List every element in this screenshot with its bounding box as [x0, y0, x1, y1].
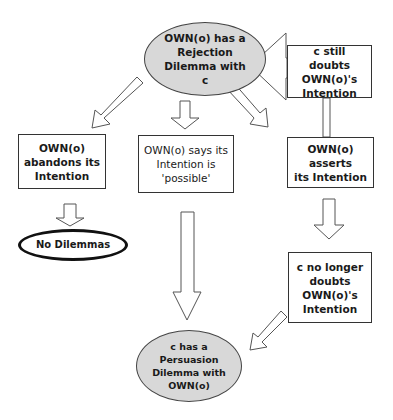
arrow-no-longer-to-persuasion	[250, 311, 287, 350]
node-label: No Dilemmas	[36, 238, 110, 252]
node-says-possible: OWN(o) says its Intention is 'possible'	[138, 135, 234, 193]
node-abandons: OWN(o) abandons its Intention	[18, 134, 106, 189]
arrow-rejection-to-abandons	[92, 77, 143, 128]
connector-still-doubts-to-asserts	[323, 98, 330, 137]
node-asserts: OWN(o) asserts its Intention	[287, 137, 374, 188]
node-label: c no longer doubts OWN(o)'s Intention	[297, 260, 363, 316]
node-label: OWN(o) asserts its Intention	[292, 142, 369, 184]
node-persuasion-dilemma: c has a Persuasion Dilemma with OWN(o)	[136, 330, 242, 402]
node-label: OWN(o) has a Rejection Dilemma with c	[164, 31, 245, 87]
arrow-asserts-to-no-longer	[314, 199, 344, 239]
node-label: c has a Persuasion Dilemma with OWN(o)	[152, 340, 226, 392]
node-label: OWN(o) abandons its Intention	[24, 141, 100, 183]
node-rejection-dilemma: OWN(o) has a Rejection Dilemma with c	[144, 22, 266, 96]
node-label: OWN(o) says its Intention is 'possible'	[144, 143, 228, 185]
node-label: c still doubts OWN(o)'s Intention	[292, 44, 367, 100]
node-still-doubts: c still doubts OWN(o)'s Intention	[287, 45, 372, 98]
node-no-dilemmas: No Dilemmas	[18, 229, 128, 261]
arrow-rejection-to-says	[171, 101, 199, 129]
arrow-abandons-to-no-dilemmas	[56, 204, 84, 226]
node-no-longer-doubts: c no longer doubts OWN(o)'s Intention	[288, 252, 372, 323]
arrow-says-to-persuasion	[173, 212, 201, 320]
